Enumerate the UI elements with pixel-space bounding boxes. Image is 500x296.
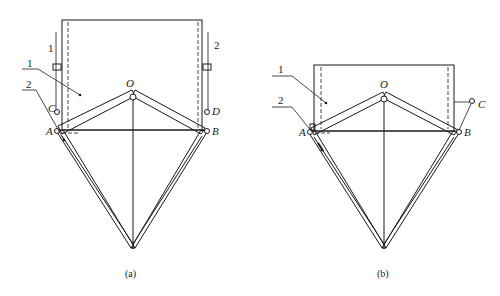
link-AO-b <box>311 92 386 135</box>
label-1-leader-a: 1 <box>27 57 33 69</box>
panel-b: 1 2 O A B C (b) <box>272 63 486 280</box>
caption-b: (b) <box>377 268 389 280</box>
label-1-top-a: 1 <box>48 42 54 54</box>
pin-C-b <box>470 99 475 104</box>
label-D-a: D <box>211 105 220 117</box>
label-2-leader-a: 2 <box>26 78 32 90</box>
pin-B-a <box>205 129 210 134</box>
pin-B-b <box>457 130 462 135</box>
link-B-bottom-b <box>382 131 459 248</box>
label-B-a: B <box>212 125 219 137</box>
mechanism-diagram: 1 2 1 2 O A B C D (a) <box>0 0 500 296</box>
inner-right-b <box>384 137 454 244</box>
label-B-b: B <box>464 126 471 138</box>
label-A-b: A <box>298 126 306 138</box>
inner-left-a <box>62 136 133 244</box>
pin-O-a <box>130 94 136 100</box>
link-OB-b <box>383 92 458 135</box>
label-1-leader-b: 1 <box>278 63 284 75</box>
link-OB-a <box>132 90 205 134</box>
caption-a: (a) <box>125 268 136 280</box>
label-C-a: C <box>48 102 56 114</box>
slider-left-a <box>53 64 61 70</box>
inner-left-b <box>314 137 384 244</box>
panel-a: 1 2 1 2 O A B C D (a) <box>22 20 220 280</box>
part2-dot-b <box>321 149 324 152</box>
label-C-b: C <box>478 98 486 110</box>
label-2-leader-b: 2 <box>278 94 284 106</box>
slider-right-a <box>203 64 211 70</box>
link-B-bottom-a <box>131 130 207 248</box>
pin-D-a <box>205 110 210 115</box>
link-A-bottom-a <box>57 130 135 248</box>
label-O-b: O <box>380 78 388 90</box>
inner-right-a <box>133 136 202 244</box>
link-AO-a <box>58 90 135 134</box>
label-O-a: O <box>126 77 134 89</box>
label-2-top-a: 2 <box>214 39 220 51</box>
leader-2-b <box>272 107 312 132</box>
label-A-a: A <box>45 125 53 137</box>
pin-O-b <box>381 96 387 102</box>
